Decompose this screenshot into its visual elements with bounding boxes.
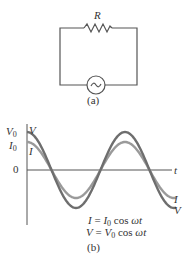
resistor-label: R — [93, 9, 101, 21]
i-start-label: I — [28, 145, 34, 157]
v0-tick-label: V0 — [6, 125, 17, 139]
resistor-icon — [84, 24, 112, 32]
v-start-label: V — [29, 124, 37, 136]
zero-tick-label: 0 — [13, 163, 19, 175]
figure: R (a) V0 V I0 I 0 t I V I = I0 cos ωt V … — [0, 0, 191, 261]
graph — [27, 124, 176, 225]
circuit-wire — [60, 28, 87, 85]
caption-a: (a) — [87, 94, 100, 107]
circuit-wire — [105, 28, 137, 85]
caption-b: (b) — [87, 241, 100, 254]
i0-tick-label: I0 — [8, 139, 17, 153]
sine-wave-glyph — [91, 83, 101, 87]
v-end-label: V — [174, 204, 182, 216]
x-axis-label: t — [174, 164, 178, 176]
circuit-diagram — [60, 24, 137, 94]
voltage-equation: V = V0 cos ωt — [86, 226, 147, 240]
